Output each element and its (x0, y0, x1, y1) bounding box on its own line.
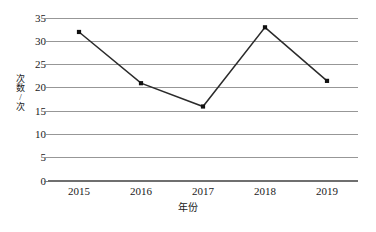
x-axis-tick-label: 2015 (68, 186, 90, 197)
x-axis-title: 年份 (0, 203, 376, 213)
y-axis-tick-label: 5 (14, 152, 46, 163)
y-axis-tick-label: 30 (14, 36, 46, 47)
y-axis-tick-label: 15 (14, 106, 46, 117)
x-axis-tick-label: 2017 (192, 186, 214, 197)
data-point-marker (263, 25, 267, 29)
data-point-marker (201, 104, 205, 108)
data-series (48, 18, 358, 181)
y-axis-tick-label: 10 (14, 129, 46, 140)
data-point-marker (77, 30, 81, 34)
x-axis-tick-label: 2018 (254, 186, 276, 197)
plot-area (48, 18, 358, 181)
x-axis-tick-label: 2016 (130, 186, 152, 197)
x-axis-tick-labels: 20152016201720182019 (48, 186, 358, 202)
line-chart: 次数/次 05101520253035 20152016201720182019… (0, 0, 376, 232)
x-axis-tick-label: 2019 (316, 186, 338, 197)
data-point-marker (139, 81, 143, 85)
y-axis-tick-label: 25 (14, 59, 46, 70)
series-line (79, 27, 327, 106)
y-axis-tick-labels: 05101520253035 (14, 0, 46, 232)
data-point-marker (325, 79, 329, 83)
y-axis-tick-label: 20 (14, 82, 46, 93)
y-axis-tick-label: 0 (14, 176, 46, 187)
y-axis-tick-label: 35 (14, 13, 46, 24)
